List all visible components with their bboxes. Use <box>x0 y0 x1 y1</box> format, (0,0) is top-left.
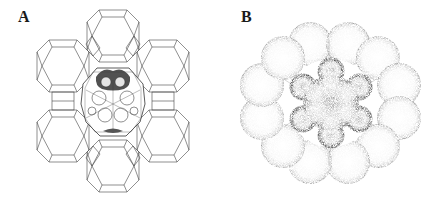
panel-b: B <box>223 0 446 206</box>
central-supercage <box>81 68 145 136</box>
space-filling-diagram <box>223 0 446 206</box>
panel-a: A <box>0 0 223 206</box>
zeolite-framework-diagram <box>0 0 223 206</box>
